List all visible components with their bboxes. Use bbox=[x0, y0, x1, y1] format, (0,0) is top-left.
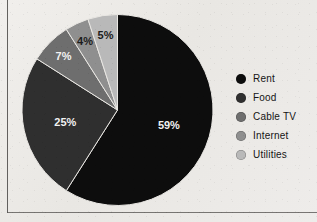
legend-item-cable-tv[interactable]: Cable TV bbox=[236, 107, 317, 126]
pie-slice-value-label: 7% bbox=[56, 50, 72, 62]
legend-swatch-icon bbox=[236, 131, 246, 141]
legend-swatch-icon bbox=[236, 93, 246, 103]
legend-swatch-icon bbox=[236, 112, 246, 122]
legend-item-rent[interactable]: Rent bbox=[236, 69, 317, 88]
legend-item-internet[interactable]: Internet bbox=[236, 126, 317, 145]
pie-chart-plot-area: 59%25%7%4%5% bbox=[22, 13, 213, 207]
legend-swatch-icon bbox=[236, 150, 246, 160]
page-border-left bbox=[7, 0, 8, 213]
legend-item-utilities[interactable]: Utilities bbox=[236, 145, 317, 164]
legend-item-label: Utilities bbox=[253, 149, 287, 160]
legend-swatch-icon bbox=[236, 74, 246, 84]
legend-item-label: Cable TV bbox=[253, 111, 296, 122]
legend-item-label: Rent bbox=[253, 73, 275, 84]
page-border-bottom bbox=[7, 212, 317, 213]
chart-legend: RentFoodCable TVInternetUtilities bbox=[236, 69, 317, 164]
pie-chart-figure: 59%25%7%4%5% RentFoodCable TVInternetUti… bbox=[0, 0, 317, 222]
pie-svg: 59%25%7%4%5% bbox=[22, 13, 213, 207]
pie-slice-value-label: 59% bbox=[158, 119, 180, 131]
legend-item-food[interactable]: Food bbox=[236, 88, 317, 107]
legend-item-label: Internet bbox=[253, 130, 289, 141]
pie-slice-value-label: 25% bbox=[54, 116, 76, 128]
pie-slice-value-label: 4% bbox=[77, 35, 93, 47]
legend-item-label: Food bbox=[253, 92, 277, 103]
pie-slice-value-label: 5% bbox=[98, 29, 114, 41]
pie-slices bbox=[22, 15, 213, 206]
